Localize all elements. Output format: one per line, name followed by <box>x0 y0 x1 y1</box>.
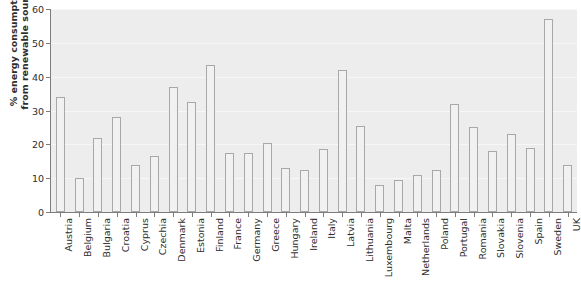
bar <box>263 143 272 212</box>
x-axis-tick-mark <box>192 213 193 217</box>
y-axis-tick-mark <box>46 178 50 179</box>
x-axis-tick-mark <box>530 213 531 217</box>
bar <box>150 156 159 212</box>
y-axis-tick-label: 50 <box>32 37 44 48</box>
x-axis-tick-label: Netherlands <box>421 218 431 288</box>
y-axis-tick-label: 20 <box>32 139 44 150</box>
x-axis-tick-mark <box>361 213 362 217</box>
x-axis-tick-mark <box>98 213 99 217</box>
x-axis-tick-label: Portugal <box>459 218 469 288</box>
bar <box>544 19 553 212</box>
x-axis-tick-label: Lithuania <box>365 218 375 288</box>
x-axis-tick-mark <box>492 213 493 217</box>
x-axis-tick-label: Belgium <box>83 218 93 288</box>
bar <box>526 148 535 212</box>
x-axis-tick-label: Cyprus <box>140 218 150 288</box>
x-axis-tick-mark <box>342 213 343 217</box>
y-axis-tick-label: 30 <box>32 105 44 116</box>
bars-layer <box>51 9 577 212</box>
bar <box>469 127 478 212</box>
bar <box>187 102 196 212</box>
x-axis-tick-mark <box>79 213 80 217</box>
x-axis-tick-mark <box>286 213 287 217</box>
bar <box>356 126 365 212</box>
x-axis-tick-mark <box>173 213 174 217</box>
x-axis-tick-mark <box>117 213 118 217</box>
x-axis-tick-mark <box>474 213 475 217</box>
x-axis-tick-label: Bulgaria <box>102 218 112 288</box>
x-axis-tick-label: Poland <box>440 218 450 288</box>
bar <box>300 170 309 212</box>
x-axis-tick-mark <box>568 213 569 217</box>
y-axis-tick-mark <box>46 9 50 10</box>
bar <box>394 180 403 212</box>
bar <box>488 151 497 212</box>
bar <box>563 165 572 212</box>
x-axis-tick-label: Slovakia <box>496 218 506 288</box>
x-axis-tick-label: France <box>233 218 243 288</box>
x-axis-tick-mark <box>549 213 550 217</box>
x-axis-tick-mark <box>436 213 437 217</box>
x-axis-tick-label: Slovenia <box>515 218 525 288</box>
x-axis-tick-label: Ireland <box>309 218 319 288</box>
y-axis-tick-mark <box>46 43 50 44</box>
x-axis-tick-label: Spain <box>534 218 544 288</box>
bar <box>112 117 121 212</box>
x-axis-tick-label: Finland <box>215 218 225 288</box>
x-axis-tick-mark <box>417 213 418 217</box>
y-axis-tick-label: 60 <box>32 4 44 15</box>
bar <box>206 65 215 212</box>
bar <box>225 153 234 212</box>
bar <box>413 175 422 212</box>
y-axis-tick-mark <box>46 111 50 112</box>
x-axis-tick-label: Sweden <box>553 218 563 288</box>
bar <box>244 153 253 212</box>
y-axis-tick-labels: 0102030405060 <box>22 0 44 288</box>
x-axis-tick-label: Italy <box>327 218 337 288</box>
bar <box>93 138 102 212</box>
y-axis-tick-mark <box>46 144 50 145</box>
x-axis-tick-mark <box>305 213 306 217</box>
bar <box>432 170 441 212</box>
bar-chart: % energy consumption from renewable sour… <box>0 0 581 288</box>
x-axis-tick-label: Estonia <box>196 218 206 288</box>
x-axis-tick-mark <box>154 213 155 217</box>
x-axis-tick-label: Hungary <box>290 218 300 288</box>
x-axis-tick-label: Malta <box>403 218 413 288</box>
x-axis-tick-mark <box>267 213 268 217</box>
bar <box>338 70 347 212</box>
x-axis-tick-label: Croatia <box>121 218 131 288</box>
y-axis-tick-mark <box>46 212 50 213</box>
x-axis-tick-label: Czechia <box>158 218 168 288</box>
x-axis-tick-label: UK <box>572 218 581 288</box>
x-axis-tick-mark <box>399 213 400 217</box>
x-axis-tick-mark <box>323 213 324 217</box>
bar <box>131 165 140 212</box>
x-axis-tick-mark <box>229 213 230 217</box>
x-axis-tick-label: Luxembourg <box>384 218 394 288</box>
x-axis-tick-mark <box>60 213 61 217</box>
bar <box>75 178 84 212</box>
bar <box>281 168 290 212</box>
x-axis-tick-mark <box>380 213 381 217</box>
y-axis-tick-mark <box>46 77 50 78</box>
x-axis-tick-mark <box>511 213 512 217</box>
bar <box>507 134 516 212</box>
bar <box>169 87 178 212</box>
bar <box>56 97 65 212</box>
bar <box>450 104 459 212</box>
x-axis-tick-labels: AustriaBelgiumBulgariaCroatiaCyprusCzech… <box>51 218 577 288</box>
bar <box>375 185 384 212</box>
x-axis-tick-label: Austria <box>64 218 74 288</box>
x-axis-tick-label: Romania <box>478 218 488 288</box>
y-axis-tick-label: 0 <box>38 207 44 218</box>
x-axis-tick-mark <box>455 213 456 217</box>
x-axis-tick-label: Denmark <box>177 218 187 288</box>
x-axis-tick-label: Latvia <box>346 218 356 288</box>
x-axis-tick-mark <box>211 213 212 217</box>
x-axis-tick-mark <box>248 213 249 217</box>
x-axis-tick-mark <box>136 213 137 217</box>
x-axis-tick-label: Greece <box>271 218 281 288</box>
x-axis-tick-label: Germany <box>252 218 262 288</box>
bar <box>319 149 328 212</box>
